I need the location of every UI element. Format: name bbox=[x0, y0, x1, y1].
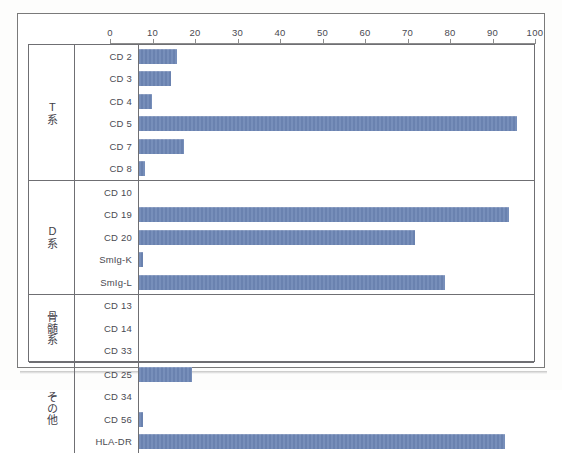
axis-tick-label: 100 bbox=[527, 27, 544, 38]
row-label: CD 7 bbox=[75, 141, 138, 152]
row-plot-area bbox=[138, 431, 534, 453]
chart-row: CD 33 bbox=[75, 340, 534, 363]
axis-tick-label: 60 bbox=[359, 27, 370, 38]
row-label: HLA-DR bbox=[75, 436, 138, 447]
bar bbox=[139, 367, 192, 382]
row-plot-area bbox=[138, 408, 534, 431]
category-group: T系CD 2CD 3CD 4CD 5CD 7CD 8 bbox=[29, 45, 534, 181]
group-label: その他 bbox=[29, 363, 75, 453]
group-label: T系 bbox=[29, 45, 75, 180]
row-plot-area bbox=[138, 204, 534, 227]
category-group: その他CD 25CD 34CD 56HLA-DR bbox=[29, 363, 534, 453]
chart-row: CD 56 bbox=[75, 408, 534, 431]
chart-row: CD 20 bbox=[75, 226, 534, 249]
chart-row: SmIg-K bbox=[75, 249, 534, 272]
group-rows: CD 25CD 34CD 56HLA-DR bbox=[75, 363, 534, 453]
chart-row: CD 4 bbox=[75, 90, 534, 113]
chart-row: CD 7 bbox=[75, 135, 534, 158]
chart-row: CD 3 bbox=[75, 68, 534, 91]
group-rows: CD 2CD 3CD 4CD 5CD 7CD 8 bbox=[75, 45, 534, 180]
bar bbox=[139, 434, 505, 449]
row-label: CD 2 bbox=[75, 51, 138, 62]
row-plot-area bbox=[138, 363, 534, 386]
row-label: CD 19 bbox=[75, 209, 138, 220]
axis-tick-label: 40 bbox=[274, 27, 285, 38]
category-group: D系CD 10CD 19CD 20SmIg-KSmIg-L bbox=[29, 181, 534, 295]
row-plot-area bbox=[138, 68, 534, 91]
chart-row: CD 14 bbox=[75, 317, 534, 340]
chart-row: CD 34 bbox=[75, 386, 534, 409]
bar bbox=[139, 252, 143, 267]
row-plot-area bbox=[138, 90, 534, 113]
group-label-text: D系 bbox=[46, 225, 58, 249]
chart-row: CD 2 bbox=[75, 45, 534, 68]
chart-row: CD 25 bbox=[75, 363, 534, 386]
row-label: CD 20 bbox=[75, 232, 138, 243]
bar bbox=[139, 94, 152, 109]
row-plot-area bbox=[138, 317, 534, 340]
row-label: CD 56 bbox=[75, 414, 138, 425]
bar bbox=[139, 49, 177, 64]
axis-tick-label: 70 bbox=[402, 27, 413, 38]
chart-grid: T系CD 2CD 3CD 4CD 5CD 7CD 8D系CD 10CD 19CD… bbox=[28, 44, 535, 362]
group-label-text: その他 bbox=[46, 391, 58, 426]
row-plot-area bbox=[138, 226, 534, 249]
bar bbox=[139, 412, 143, 427]
chart-row: CD 5 bbox=[75, 113, 534, 136]
axis-tick-label: 90 bbox=[487, 27, 498, 38]
value-axis: 0102030405060708090100 bbox=[110, 26, 535, 44]
bar bbox=[139, 207, 509, 222]
bar bbox=[139, 116, 517, 131]
axis-tick bbox=[535, 39, 536, 44]
group-label: 骨髄系 bbox=[29, 295, 75, 363]
row-plot-area bbox=[138, 45, 534, 68]
group-label-text: 骨髄系 bbox=[46, 311, 58, 346]
row-plot-area bbox=[138, 271, 534, 294]
row-plot-area bbox=[138, 249, 534, 272]
row-label: CD 14 bbox=[75, 323, 138, 334]
group-rows: CD 10CD 19CD 20SmIg-KSmIg-L bbox=[75, 181, 534, 294]
axis-tick-label: 20 bbox=[189, 27, 200, 38]
chart-row: CD 13 bbox=[75, 295, 534, 318]
row-plot-area bbox=[138, 181, 534, 204]
row-plot-area bbox=[138, 386, 534, 409]
bar bbox=[139, 139, 184, 154]
row-plot-area bbox=[138, 295, 534, 318]
row-label: CD 8 bbox=[75, 163, 138, 174]
group-label: D系 bbox=[29, 181, 75, 294]
row-label: CD 25 bbox=[75, 369, 138, 380]
category-group: 骨髄系CD 13CD 14CD 33 bbox=[29, 295, 534, 364]
chart-row: CD 10 bbox=[75, 181, 534, 204]
bar bbox=[139, 71, 171, 86]
row-label: CD 33 bbox=[75, 345, 138, 356]
row-label: SmIg-L bbox=[75, 277, 138, 288]
axis-tick-label: 10 bbox=[147, 27, 158, 38]
row-plot-area bbox=[138, 158, 534, 181]
axis-tick-label: 0 bbox=[107, 27, 113, 38]
row-label: CD 4 bbox=[75, 96, 138, 107]
row-label: CD 34 bbox=[75, 391, 138, 402]
group-rows: CD 13CD 14CD 33 bbox=[75, 295, 534, 363]
row-plot-area bbox=[138, 340, 534, 363]
chart-row: HLA-DR bbox=[75, 431, 534, 453]
row-plot-area bbox=[138, 135, 534, 158]
row-label: CD 10 bbox=[75, 187, 138, 198]
chart-row: CD 8 bbox=[75, 158, 534, 181]
bar bbox=[139, 230, 415, 245]
axis-tick-label: 80 bbox=[444, 27, 455, 38]
chart-row: SmIg-L bbox=[75, 271, 534, 294]
row-label: SmIg-K bbox=[75, 254, 138, 265]
bar bbox=[139, 275, 445, 290]
row-label: CD 13 bbox=[75, 300, 138, 311]
bar bbox=[139, 161, 145, 176]
axis-tick-label: 30 bbox=[232, 27, 243, 38]
row-label: CD 3 bbox=[75, 73, 138, 84]
row-label: CD 5 bbox=[75, 118, 138, 129]
axis-tick-label: 50 bbox=[317, 27, 328, 38]
row-plot-area bbox=[138, 113, 534, 136]
chart-row: CD 19 bbox=[75, 204, 534, 227]
group-label-text: T系 bbox=[46, 101, 58, 125]
